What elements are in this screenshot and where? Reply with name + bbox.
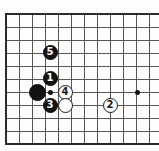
go-board-diagram: 13542 bbox=[0, 0, 159, 151]
hoshi-right-icon bbox=[135, 90, 140, 95]
hoshi-left-icon bbox=[48, 90, 53, 95]
star-point-layer bbox=[0, 0, 159, 151]
